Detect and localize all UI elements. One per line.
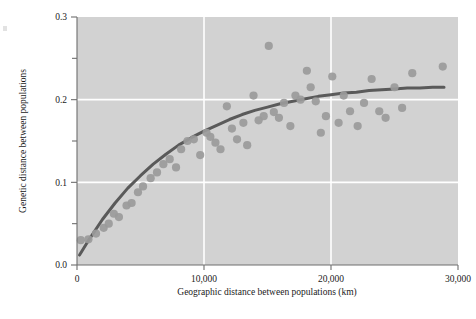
data-point: [211, 139, 219, 147]
data-point: [286, 122, 294, 130]
data-point: [335, 119, 343, 127]
data-point: [139, 182, 147, 190]
data-point: [153, 168, 161, 176]
data-point: [105, 220, 113, 228]
data-point: [390, 83, 398, 91]
data-point: [368, 75, 376, 83]
data-point: [233, 135, 241, 143]
data-point: [216, 145, 224, 153]
data-point: [439, 63, 447, 71]
data-point: [228, 125, 236, 133]
data-point: [398, 104, 406, 112]
data-point: [260, 112, 268, 120]
data-point: [375, 107, 383, 115]
plot-area-background: [77, 17, 458, 265]
data-point: [346, 107, 354, 115]
x-axis-title: Geographic distance between populations …: [177, 287, 356, 298]
data-point: [77, 236, 85, 244]
data-point: [190, 135, 198, 143]
y-tick-label: 0.1: [55, 178, 67, 188]
data-point: [303, 67, 311, 75]
data-point: [382, 114, 390, 122]
y-tick-label: 0.0: [55, 260, 67, 270]
x-tick-label: 10,000: [191, 274, 217, 284]
data-point: [340, 91, 348, 99]
data-point: [243, 141, 251, 149]
data-point: [354, 122, 362, 130]
x-tick-label: 0: [75, 274, 80, 284]
corner-artifact: [3, 26, 7, 31]
x-tick-label: 20,000: [318, 274, 344, 284]
data-point: [249, 91, 257, 99]
data-point: [239, 119, 247, 127]
data-point: [360, 99, 368, 107]
data-point: [92, 229, 100, 237]
data-point: [147, 174, 155, 182]
data-point: [322, 112, 330, 120]
data-point: [84, 235, 92, 243]
data-point: [128, 199, 136, 207]
data-point: [177, 145, 185, 153]
data-point: [280, 99, 288, 107]
y-tick-label: 0.3: [55, 12, 67, 22]
data-point: [312, 97, 320, 105]
data-point: [408, 69, 416, 77]
data-point: [196, 151, 204, 159]
data-point: [166, 155, 174, 163]
data-point: [275, 114, 283, 122]
figure-container: 010,00020,00030,0000.00.10.20.3 Geograph…: [0, 0, 476, 319]
scatter-plot: 010,00020,00030,0000.00.10.20.3 Geograph…: [0, 0, 476, 319]
data-point: [115, 213, 123, 221]
data-point: [317, 129, 325, 137]
data-point: [265, 42, 273, 50]
data-point: [307, 83, 315, 91]
data-point: [223, 102, 231, 110]
data-point: [328, 72, 336, 80]
data-point: [296, 96, 304, 104]
data-point: [172, 163, 180, 171]
y-axis-title: Genetic distance between populations: [18, 69, 28, 213]
y-tick-label: 0.2: [55, 95, 67, 105]
x-tick-label: 30,000: [445, 274, 471, 284]
